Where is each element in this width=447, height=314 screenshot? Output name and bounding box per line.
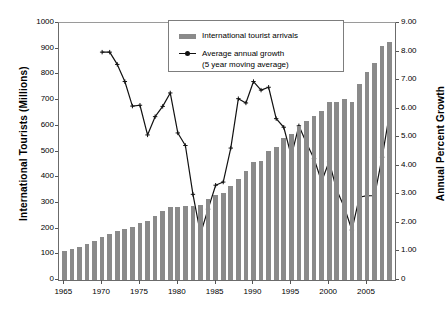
tick-mark	[139, 280, 140, 284]
growth-marker	[221, 180, 225, 184]
legend-label-arrivals: International tourist arrivals	[202, 31, 298, 40]
bar	[138, 223, 143, 280]
y-axis-right-tick-label: 7.00	[401, 74, 433, 83]
tick-mark	[215, 280, 216, 284]
tick-mark	[396, 22, 399, 23]
tick-mark	[177, 280, 178, 284]
bar	[122, 229, 127, 280]
tick-mark	[55, 279, 58, 280]
x-axis-tick-label: 1980	[162, 287, 192, 296]
growth-marker	[130, 104, 134, 108]
legend-label-growth-sub: (5 year moving average)	[202, 60, 289, 69]
tick-mark	[396, 108, 399, 109]
bar	[289, 134, 294, 280]
tick-mark	[328, 280, 329, 284]
growth-marker	[145, 133, 149, 137]
growth-marker	[266, 85, 270, 89]
bar	[304, 121, 309, 280]
tick-mark	[396, 51, 399, 52]
y-axis-left-tick-label: 900	[24, 43, 54, 52]
bar	[62, 251, 67, 280]
bar	[319, 111, 324, 280]
y-axis-left-tick-label: 800	[24, 68, 54, 77]
y-axis-right-tick-label: 6.00	[401, 103, 433, 112]
y-axis-right-tick-label: 1.00	[401, 245, 433, 254]
y-axis-left-tick-label: 100	[24, 248, 54, 257]
bar	[312, 116, 317, 280]
tick-mark	[396, 279, 399, 280]
tick-mark	[55, 48, 58, 49]
tick-mark	[55, 228, 58, 229]
y-axis-right-tick-label: 2.00	[401, 217, 433, 226]
tick-mark	[396, 222, 399, 223]
y-axis-right-tick-label: 0	[401, 274, 433, 283]
bar	[175, 207, 180, 281]
bar	[70, 249, 75, 280]
bar	[327, 102, 332, 280]
bar	[107, 234, 112, 280]
growth-marker	[100, 50, 104, 54]
tick-mark	[396, 193, 399, 194]
bar	[334, 102, 339, 280]
bar	[85, 244, 90, 280]
bar	[221, 193, 226, 280]
tick-mark	[290, 280, 291, 284]
tick-mark	[396, 79, 399, 80]
bar	[213, 195, 218, 280]
tick-mark	[55, 22, 58, 23]
bar	[387, 42, 392, 280]
growth-marker	[138, 103, 142, 107]
bar	[236, 179, 241, 281]
bar	[206, 199, 211, 280]
tick-mark	[55, 73, 58, 74]
bar	[365, 72, 370, 280]
y-axis-left-tick-label: 600	[24, 120, 54, 129]
bar	[168, 207, 173, 280]
tick-mark	[366, 280, 367, 284]
x-axis-tick-label: 1985	[200, 287, 230, 296]
y-axis-right-tick-label: 9.00	[401, 17, 433, 26]
tick-mark	[63, 280, 64, 284]
bar	[130, 227, 135, 280]
y-axis-right-tick-label: 5.00	[401, 131, 433, 140]
bar	[160, 211, 165, 280]
tick-mark	[55, 176, 58, 177]
y-axis-left-tick-label: 700	[24, 94, 54, 103]
tick-mark	[55, 202, 58, 203]
bar	[357, 84, 362, 280]
y-axis-right-title: Annual Percent Growth	[435, 59, 446, 229]
bar	[281, 138, 286, 280]
legend-label-growth: Average annual growth	[202, 49, 284, 58]
bar	[228, 186, 233, 280]
x-axis-tick-label: 1970	[86, 287, 116, 296]
bar	[92, 241, 97, 280]
bar	[100, 237, 105, 280]
bar	[297, 126, 302, 280]
x-axis-tick-label: 1995	[275, 287, 305, 296]
bar	[380, 46, 385, 280]
bar	[259, 161, 264, 280]
bar	[145, 221, 150, 280]
y-axis-left-tick-label: 200	[24, 223, 54, 232]
bar	[198, 205, 203, 280]
y-axis-left-tick-label: 400	[24, 171, 54, 180]
bar	[183, 206, 188, 280]
y-axis-right-tick-label: 3.00	[401, 188, 433, 197]
tick-mark	[396, 250, 399, 251]
bar	[244, 171, 249, 280]
tick-mark	[55, 99, 58, 100]
y-axis-right-tick-label: 8.00	[401, 46, 433, 55]
tick-mark	[55, 125, 58, 126]
tick-mark	[252, 280, 253, 284]
bar	[77, 247, 82, 280]
tick-mark	[396, 136, 399, 137]
bar	[191, 206, 196, 280]
x-axis-tick-label: 1965	[48, 287, 78, 296]
bar	[153, 216, 158, 280]
y-axis-left-tick-label: 300	[24, 197, 54, 206]
growth-marker	[191, 192, 195, 196]
tick-mark	[101, 280, 102, 284]
tourism-growth-chart: International Tourists (Millions) Annual…	[0, 0, 447, 314]
x-axis-tick-label: 2000	[313, 287, 343, 296]
bar	[342, 99, 347, 280]
